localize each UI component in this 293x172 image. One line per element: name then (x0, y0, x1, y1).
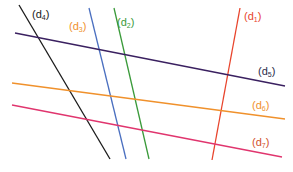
label-paren-close: ) (266, 99, 270, 111)
label-d2: (d2) (117, 17, 134, 31)
label-d6: (d6) (252, 100, 269, 114)
label-d5: (d5) (258, 66, 275, 80)
label-paren-close: ) (266, 136, 270, 148)
label-paren-close: ) (83, 20, 87, 32)
label-paren-close: ) (258, 10, 262, 22)
line-d5 (15, 33, 285, 86)
label-d7: (d7) (252, 137, 269, 151)
label-paren-close: ) (46, 8, 50, 20)
line-d4 (19, 5, 110, 159)
label-d4: (d4) (32, 9, 49, 23)
label-d3: (d3) (69, 21, 86, 35)
label-d1: (d1) (244, 11, 261, 25)
label-paren-close: ) (131, 16, 135, 28)
lines-diagram (0, 0, 293, 172)
line-d6 (12, 83, 285, 119)
line-d1 (212, 8, 240, 160)
label-paren-close: ) (272, 65, 276, 77)
